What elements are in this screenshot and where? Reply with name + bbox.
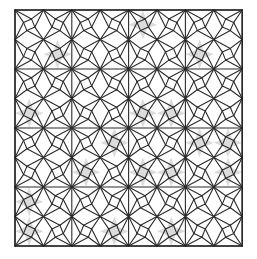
tiling-edge (194, 225, 197, 233)
tiling-edge (52, 166, 60, 170)
tiling-edge (141, 86, 149, 90)
tiling-edge (24, 137, 32, 141)
tiling-edge (24, 48, 27, 56)
tiling-edge (166, 52, 169, 60)
tiling-edge (88, 196, 91, 204)
tiling-edge (109, 27, 117, 31)
tiling-edge (194, 19, 202, 23)
shaded-star-tile (157, 99, 185, 129)
tiling-edge (24, 22, 27, 30)
tiling-edge (52, 107, 60, 111)
tiling-edge (222, 48, 230, 52)
tiling-edge (52, 225, 60, 229)
shaded-star-tile (157, 217, 185, 247)
tiling-figure (0, 0, 257, 259)
tiling-edge (222, 52, 225, 60)
tiling-edge (55, 196, 63, 200)
tiling-edge (222, 107, 230, 111)
tiling-edge (194, 175, 202, 179)
tiling-edge (169, 19, 177, 23)
tiling-edge (197, 204, 205, 208)
tiling-edge (52, 27, 60, 31)
tiling-edge (55, 116, 63, 120)
tiling-edge (117, 81, 120, 89)
tiling-edge (80, 107, 83, 115)
tiling-edge (32, 170, 35, 178)
tiling-edge (52, 86, 60, 90)
tiling-edge (117, 48, 120, 56)
tiling-edge (80, 196, 88, 200)
tiling-edge (112, 57, 120, 61)
shaded-star-tile (214, 158, 242, 188)
tiling-edge (166, 19, 169, 27)
tiling-edge (88, 52, 91, 60)
tiling-edge (112, 175, 120, 179)
tiling-edge (194, 199, 197, 207)
tiling-edge (84, 145, 92, 149)
shaded-star-tile (129, 99, 157, 129)
tiling-edge (80, 225, 83, 233)
tiling-edge (145, 78, 148, 86)
tiling-edge (226, 78, 234, 82)
tiling-edge (197, 107, 205, 111)
tiling-edge (84, 204, 92, 208)
tiling-edge (60, 199, 63, 207)
tiling-edge (230, 107, 233, 115)
tiling-edge (109, 52, 112, 60)
tiling-edge (202, 170, 205, 178)
tiling-edge (194, 78, 202, 82)
tiling-edge (27, 166, 35, 170)
tiling-edge (24, 175, 32, 179)
shaded-star-tile (129, 10, 157, 40)
shaded-star-tile (43, 40, 71, 70)
tiling-edge (60, 81, 63, 89)
tiling-edge (109, 111, 112, 119)
tiling-edge (80, 81, 83, 89)
shaded-star-tile (100, 217, 128, 247)
tiling-edge (202, 229, 205, 237)
tiling-edge (60, 166, 63, 174)
tiling-edge (194, 234, 202, 238)
tiling-edge (222, 27, 230, 31)
tiling-edge (145, 137, 148, 145)
tiling-edge (80, 78, 88, 82)
tiling-edge (117, 199, 120, 207)
tiling-edge (166, 86, 174, 90)
shaded-star-tile (15, 217, 43, 247)
tiling-edge (88, 111, 91, 119)
tiling-edge (230, 199, 233, 207)
tiling-edge (117, 22, 120, 30)
tiling-edge (109, 166, 117, 170)
tiling-edge (52, 229, 55, 237)
tiling-edge (137, 234, 145, 238)
tiling-edge (137, 140, 140, 148)
tiling-edge (226, 234, 234, 238)
tiling-edges (15, 10, 242, 246)
shaded-star-tile (15, 187, 43, 217)
tiling-edge (141, 48, 149, 52)
tiling-edge (27, 86, 35, 90)
tiling-edge (80, 48, 83, 56)
tiling-edge (52, 19, 55, 27)
tiling-edge (80, 234, 88, 238)
tiling-edge (226, 57, 234, 61)
tiling-edge (55, 175, 63, 179)
tiling-edge (84, 86, 92, 90)
tiling-edge (55, 137, 63, 141)
tiling-edge (230, 22, 233, 30)
tiling-edge (55, 234, 63, 238)
tiling-edge (194, 107, 197, 115)
tiling-edge (112, 116, 120, 120)
tiling-edge (226, 196, 234, 200)
tiling-edge (80, 22, 83, 30)
tiling-edge (226, 116, 234, 120)
tiling-edge (166, 137, 169, 145)
tiling-edge (32, 19, 35, 27)
tiling-edge (222, 111, 225, 119)
tiling-edge (174, 81, 177, 89)
tiling-edge (52, 204, 60, 208)
tiling-edge (109, 204, 117, 208)
tiling-edge (166, 204, 174, 208)
tiling-edge (80, 140, 83, 148)
shaded-star-tile (185, 128, 213, 158)
